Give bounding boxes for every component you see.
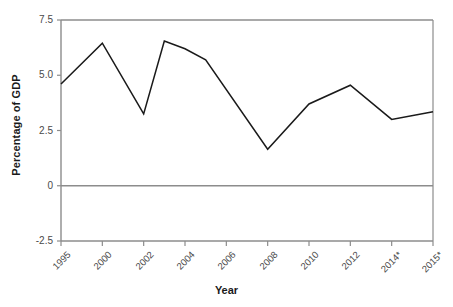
x-tick-marks-group (61, 241, 433, 246)
y-tick-label: 2.5 (19, 125, 53, 136)
gridlines-group (61, 20, 433, 241)
data-series-line (61, 41, 433, 149)
y-tick-label: -2.5 (19, 235, 53, 246)
y-tick-label: 7.5 (19, 14, 53, 25)
y-tick-label: 5.0 (19, 69, 53, 80)
y-tick-label: 0 (19, 180, 53, 191)
x-axis-title: Year (0, 284, 453, 296)
chart-container: Percentage of GDP 7.55.02.50-2.5 1995200… (0, 0, 453, 307)
